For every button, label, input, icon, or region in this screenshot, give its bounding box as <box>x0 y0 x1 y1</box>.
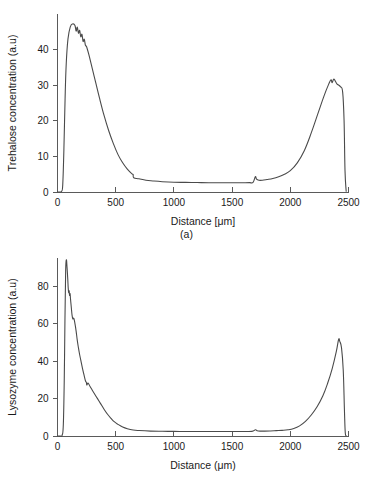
y-axis-tick-label: 0 <box>43 431 49 442</box>
x-axis-tick-label: 0 <box>55 441 61 452</box>
x-axis-tick-label: 1000 <box>163 441 186 452</box>
x-axis-tick-label: 1500 <box>221 441 244 452</box>
y-axis-tick-label: 30 <box>37 80 49 91</box>
x-axis-tick-label: 2500 <box>337 197 360 208</box>
chart-a-plot: 05001000150020002500010203040Distance [μ… <box>0 0 373 243</box>
y-axis-tick-label: 80 <box>37 281 49 292</box>
panel-a-caption: (a) <box>0 228 373 240</box>
y-axis-tick-label: 20 <box>37 115 49 126</box>
y-axis-tick-label: 40 <box>37 356 49 367</box>
x-axis-tick-label: 500 <box>107 197 124 208</box>
x-axis-tick-label: 2000 <box>279 441 302 452</box>
chart-panel-b: 05001000150020002500020406080Distance (μ… <box>0 244 373 487</box>
data-series-line <box>58 260 347 437</box>
chart-b-plot: 05001000150020002500020406080Distance (μ… <box>0 244 373 487</box>
y-axis-tick-label: 20 <box>37 393 49 404</box>
x-axis-title: Distance [μm] <box>171 215 235 227</box>
x-axis-tick-label: 1000 <box>163 197 186 208</box>
x-axis-line <box>58 187 349 192</box>
y-axis-tick-label: 60 <box>37 318 49 329</box>
y-axis-tick-label: 10 <box>37 151 49 162</box>
x-axis-tick-label: 2000 <box>279 197 302 208</box>
y-axis-tick-label: 40 <box>37 44 49 55</box>
x-axis-tick-label: 2500 <box>337 441 360 452</box>
data-series-line <box>58 24 347 192</box>
y-axis-title: Lysozyme concentration (a.u) <box>6 278 18 415</box>
chart-panel-a: 05001000150020002500010203040Distance [μ… <box>0 0 373 243</box>
x-axis-tick-label: 500 <box>107 441 124 452</box>
figure-container: 05001000150020002500010203040Distance [μ… <box>0 0 373 487</box>
x-axis-tick-label: 1500 <box>221 197 244 208</box>
x-axis-tick-label: 0 <box>55 197 61 208</box>
y-axis-title: Trehalose concentration (a.u) <box>6 35 18 172</box>
x-axis-title: Distance (μm) <box>170 459 236 471</box>
y-axis-tick-label: 0 <box>43 187 49 198</box>
